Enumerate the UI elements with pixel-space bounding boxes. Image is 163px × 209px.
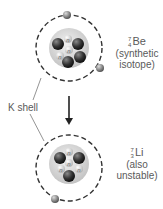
lithium-label: 7 3 Li (also unstable) bbox=[114, 147, 160, 181]
proton bbox=[74, 51, 86, 63]
lithium-atom: n n n n bbox=[36, 135, 102, 203]
electron bbox=[96, 64, 104, 72]
isotope-numbers: 7 4 bbox=[128, 36, 131, 48]
proton bbox=[62, 56, 74, 68]
isotope-numbers: 7 3 bbox=[131, 147, 134, 159]
isotope-note: unstable) bbox=[114, 170, 160, 181]
down-arrow-icon bbox=[65, 96, 73, 125]
beryllium-label: 7 4 Be (synthetic isotope) bbox=[114, 36, 160, 70]
k-shell-label: K shell bbox=[8, 102, 38, 113]
proton bbox=[54, 152, 66, 164]
element-symbol: Li bbox=[135, 146, 144, 158]
proton bbox=[72, 38, 84, 50]
isotope-note: (also bbox=[114, 159, 160, 170]
beryllium-atom: n n n bbox=[36, 11, 104, 81]
k-shell-pointer bbox=[30, 114, 44, 141]
electron bbox=[63, 11, 71, 19]
isotope-note: isotope) bbox=[114, 59, 160, 70]
proton bbox=[52, 38, 64, 50]
k-shell-pointer bbox=[33, 78, 41, 100]
element-symbol: Be bbox=[132, 35, 145, 47]
proton bbox=[73, 152, 85, 164]
proton bbox=[63, 170, 75, 182]
electron bbox=[51, 195, 59, 203]
isotope-note: (synthetic bbox=[114, 48, 160, 59]
